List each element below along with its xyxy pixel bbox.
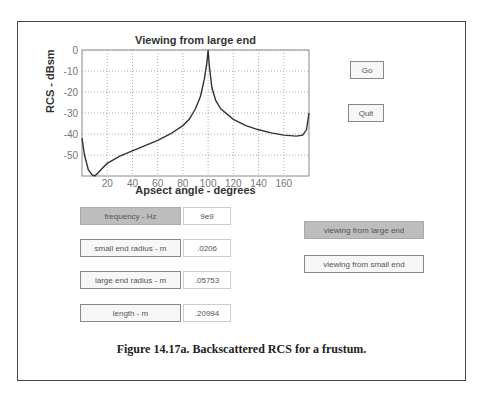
svg-text:100: 100: [200, 178, 217, 189]
small-end-radius-field[interactable]: .0206: [183, 239, 231, 257]
svg-text:120: 120: [225, 178, 242, 189]
svg-text:-40: -40: [64, 129, 79, 140]
view-large-end-button[interactable]: viewing from large end: [304, 221, 424, 239]
large-end-radius-label-button[interactable]: large end radius - m: [80, 271, 181, 289]
svg-text:40: 40: [127, 178, 139, 189]
svg-text:160: 160: [275, 178, 292, 189]
svg-text:-10: -10: [64, 66, 79, 77]
svg-text:-50: -50: [64, 150, 79, 161]
length-label-button[interactable]: length - m: [80, 304, 181, 322]
frequency-label-button[interactable]: frequency - Hz: [80, 207, 181, 225]
svg-text:140: 140: [250, 178, 267, 189]
svg-text:-30: -30: [64, 108, 79, 119]
view-small-end-button[interactable]: viewing from small end: [304, 255, 424, 273]
go-button[interactable]: Go: [350, 61, 384, 79]
rcs-plot: 204060801001201401600-10-20-30-40-50: [0, 0, 485, 401]
frequency-field[interactable]: 9e9: [183, 207, 231, 225]
small-end-radius-label-button[interactable]: small end radius - m: [80, 239, 181, 257]
length-field[interactable]: .20994: [183, 304, 231, 322]
large-end-radius-field[interactable]: .05753: [183, 271, 231, 289]
svg-text:20: 20: [102, 178, 114, 189]
svg-text:60: 60: [152, 178, 164, 189]
svg-text:80: 80: [177, 178, 189, 189]
figure-caption: Figure 14.17a. Backscattered RCS for a f…: [17, 342, 466, 357]
quit-button[interactable]: Quit: [348, 104, 384, 122]
svg-text:-20: -20: [64, 87, 79, 98]
svg-text:0: 0: [72, 45, 78, 56]
